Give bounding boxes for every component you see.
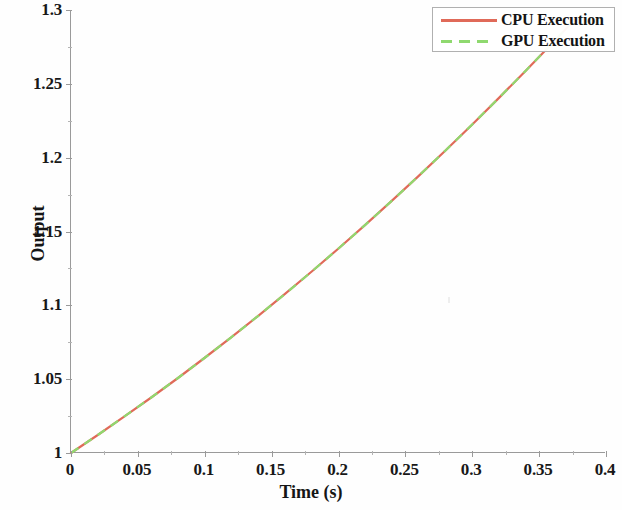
x-tick-label: 0.25 [369, 460, 439, 480]
x-tick-mark [405, 451, 406, 457]
legend-swatch-cpu-execution [441, 19, 497, 22]
x-tick-mark [71, 451, 72, 457]
y-tick-label: 1.3 [0, 0, 62, 20]
y-tick-mark-minor [68, 342, 72, 343]
y-axis-title: Output [28, 174, 49, 294]
x-tick-mark [606, 451, 607, 457]
x-tick-label: 0.2 [303, 460, 373, 480]
y-tick-mark-minor [68, 121, 72, 122]
y-tick-mark-minor [68, 47, 72, 48]
x-tick-label: 0.35 [503, 460, 573, 480]
x-tick-mark-minor [171, 451, 172, 455]
x-tick-label: 0.3 [436, 460, 506, 480]
x-tick-mark [272, 451, 273, 457]
scan-artifact [448, 297, 450, 303]
series-line-gpu-execution [71, 18, 577, 453]
x-tick-label: 0.05 [102, 460, 172, 480]
x-tick-mark-minor [305, 451, 306, 455]
x-tick-mark [539, 451, 540, 457]
x-tick-mark-minor [439, 451, 440, 455]
y-tick-label: 1.2 [0, 148, 62, 168]
x-axis-title: Time (s) [0, 482, 622, 503]
legend-entry-gpu-execution: GPU Execution [433, 31, 614, 52]
y-tick-mark [66, 84, 72, 85]
legend-label-cpu-execution: CPU Execution [501, 11, 604, 29]
x-tick-mark-minor [372, 451, 373, 455]
legend-label-gpu-execution: GPU Execution [501, 32, 605, 50]
x-tick-mark [138, 451, 139, 457]
x-tick-label: 0 [35, 460, 105, 480]
legend-entry-cpu-execution: CPU Execution [433, 10, 614, 31]
y-tick-label: 1.1 [0, 295, 62, 315]
plot-area [70, 10, 605, 453]
y-tick-label: 1.05 [0, 369, 62, 389]
x-tick-mark-minor [238, 451, 239, 455]
legend-swatch-gpu-execution [441, 40, 497, 43]
series-line-cpu-execution [71, 18, 577, 453]
x-tick-mark [205, 451, 206, 457]
chart-legend: CPU Execution GPU Execution [432, 7, 615, 52]
figure-canvas: 11.051.11.151.21.251.3 00.050.10.150.20.… [0, 0, 622, 510]
x-tick-label: 0.15 [236, 460, 306, 480]
y-tick-mark [66, 10, 72, 11]
y-tick-mark [66, 305, 72, 306]
y-tick-mark [66, 232, 72, 233]
y-tick-mark-minor [68, 268, 72, 269]
x-tick-label: 0.1 [169, 460, 239, 480]
x-tick-mark [339, 451, 340, 457]
x-tick-mark-minor [104, 451, 105, 455]
y-tick-mark-minor [68, 416, 72, 417]
y-tick-mark [66, 379, 72, 380]
data-series-layer [71, 10, 606, 453]
y-tick-label: 1.25 [0, 74, 62, 94]
x-tick-mark-minor [573, 451, 574, 455]
x-tick-mark [472, 451, 473, 457]
x-tick-label: 0.4 [570, 460, 622, 480]
y-tick-mark-minor [68, 195, 72, 196]
x-tick-mark-minor [506, 451, 507, 455]
y-tick-mark [66, 158, 72, 159]
